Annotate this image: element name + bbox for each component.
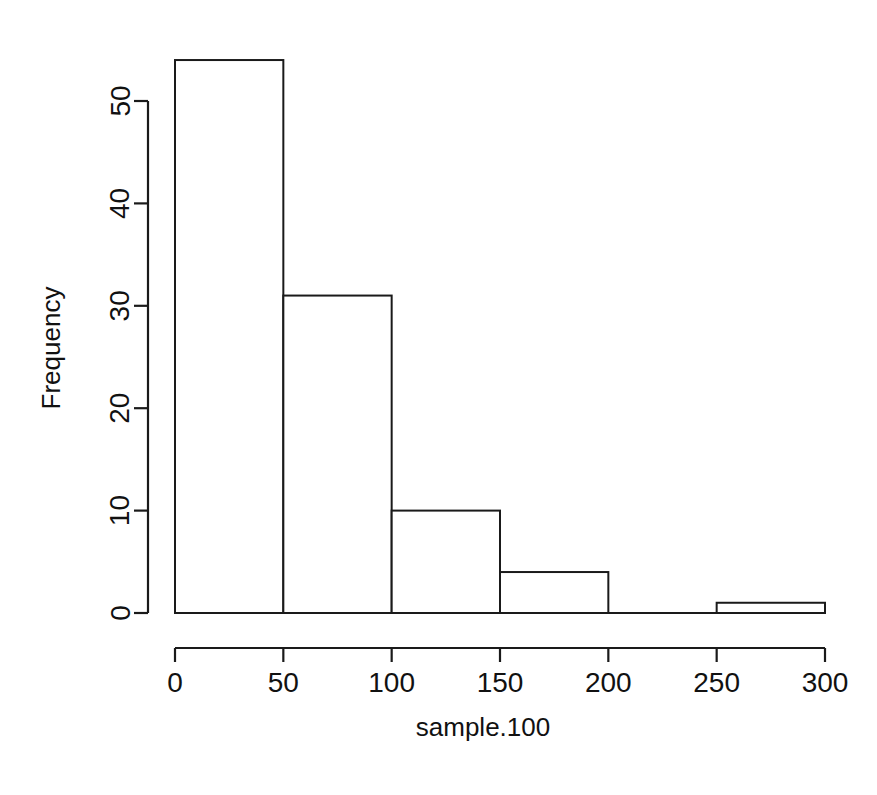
- histogram-bar: [175, 60, 283, 613]
- histogram-bar: [283, 296, 391, 613]
- x-tick-label: 250: [693, 667, 740, 698]
- x-tick-label: 0: [167, 667, 183, 698]
- y-tick-label: 50: [105, 85, 136, 116]
- y-tick-label: 20: [105, 393, 136, 424]
- x-tick-label: 200: [585, 667, 632, 698]
- x-axis-title: sample.100: [416, 712, 550, 742]
- histogram-bar: [500, 572, 608, 613]
- histogram-bar: [392, 511, 500, 613]
- histogram-bar: [717, 603, 825, 613]
- x-tick-label: 150: [477, 667, 524, 698]
- y-axis-title: Frequency: [36, 287, 66, 410]
- y-tick-label: 10: [105, 495, 136, 526]
- x-tick-label: 300: [802, 667, 849, 698]
- chart-canvas: 01020304050 050100150200250300 Frequency…: [0, 0, 877, 795]
- y-tick-label: 40: [105, 188, 136, 219]
- x-tick-label: 50: [268, 667, 299, 698]
- histogram-plot: 01020304050 050100150200250300 Frequency…: [0, 0, 877, 795]
- y-tick-label: 30: [105, 290, 136, 321]
- y-tick-label: 0: [105, 605, 136, 621]
- x-tick-label: 100: [368, 667, 415, 698]
